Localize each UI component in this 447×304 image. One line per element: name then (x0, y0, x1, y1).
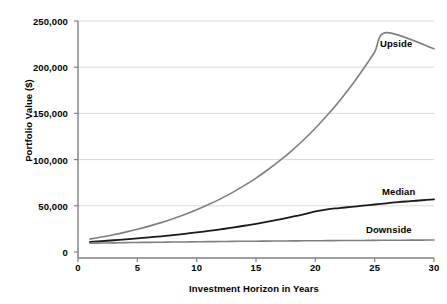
x-tick-label: 10 (177, 262, 217, 273)
y-axis-title: Portfolio Value ($) (23, 41, 34, 201)
x-tick-label: 0 (58, 262, 98, 273)
x-tick-label: 25 (355, 262, 395, 273)
series-label-upside: Upside (380, 38, 412, 49)
x-tick-label: 5 (117, 262, 157, 273)
x-tick-label: 20 (295, 262, 335, 273)
x-tick-label: 15 (236, 262, 276, 273)
portfolio-value-chart: 050,000100,000150,000200,000250,000 0510… (0, 0, 447, 304)
x-tick-label: 30 (414, 262, 447, 273)
x-axis-title: Investment Horizon in Years (78, 283, 430, 294)
series-label-median: Median (382, 186, 415, 197)
series-label-downside: Downside (366, 224, 412, 235)
